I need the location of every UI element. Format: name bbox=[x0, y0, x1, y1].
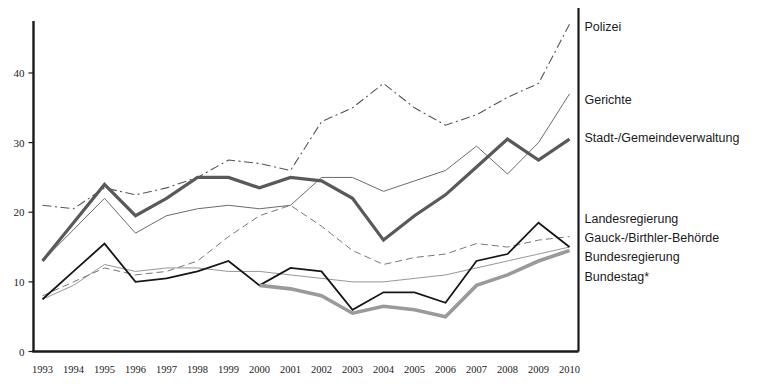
x-axis-tick-label: 1994 bbox=[63, 364, 85, 375]
series-label: Bundesregierung bbox=[585, 250, 680, 264]
line-chart: 0102030401993199419951996199719981999200… bbox=[0, 0, 784, 388]
x-axis-tick-label: 2003 bbox=[342, 364, 363, 375]
series-line bbox=[43, 24, 570, 209]
x-axis-tick-label: 1995 bbox=[94, 364, 115, 375]
x-axis-tick-label: 2008 bbox=[497, 364, 518, 375]
y-axis-tick-label: 10 bbox=[14, 276, 26, 288]
y-axis-tick-label: 20 bbox=[14, 206, 26, 218]
series-label: Bundestag* bbox=[585, 270, 650, 284]
x-axis-tick-label: 2002 bbox=[311, 364, 332, 375]
series-label: Gauck-/Birthler-Behörde bbox=[585, 231, 720, 245]
series-label: Polizei bbox=[585, 20, 622, 34]
x-axis-tick-label: 1999 bbox=[218, 364, 239, 375]
x-axis-tick-label: 2010 bbox=[559, 364, 580, 375]
x-axis-tick-label: 2001 bbox=[280, 364, 301, 375]
series-label: Gerichte bbox=[585, 93, 632, 107]
x-axis-tick-label: 1998 bbox=[187, 364, 208, 375]
x-axis-tick-label: 1993 bbox=[32, 364, 53, 375]
series-line bbox=[43, 94, 570, 261]
series-line bbox=[260, 251, 570, 317]
x-axis-tick-label: 2006 bbox=[435, 364, 456, 375]
series-line bbox=[43, 139, 570, 261]
series-label: Landesregierung bbox=[585, 212, 679, 226]
x-axis-tick-label: 2004 bbox=[373, 364, 395, 375]
x-axis-tick-label: 2009 bbox=[528, 364, 549, 375]
series-label: Stadt-/Gemeindeverwaltung bbox=[585, 131, 740, 145]
chart-container: 0102030401993199419951996199719981999200… bbox=[0, 0, 784, 388]
x-axis-tick-label: 2007 bbox=[466, 364, 487, 375]
x-axis-tick-label: 1997 bbox=[156, 364, 177, 375]
series-line bbox=[43, 223, 570, 310]
y-axis-tick-label: 40 bbox=[14, 67, 26, 79]
y-axis-tick-label: 30 bbox=[14, 137, 26, 149]
y-axis-tick-label: 0 bbox=[19, 346, 25, 358]
x-axis-tick-label: 1996 bbox=[125, 364, 146, 375]
x-axis-tick-label: 2005 bbox=[404, 364, 425, 375]
x-axis-tick-label: 2000 bbox=[249, 364, 270, 375]
